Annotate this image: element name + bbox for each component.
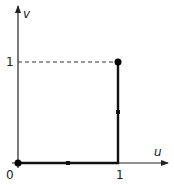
v-axis-label: v <box>23 7 31 21</box>
end-point-dot <box>115 59 122 66</box>
u-tick-label: 1 <box>116 168 124 182</box>
path-curve <box>18 62 118 163</box>
diagram-canvas: v u 1 1 0 <box>0 0 174 185</box>
origin-label: 0 <box>6 168 14 182</box>
start-point-dot <box>15 160 22 167</box>
direction-marker-vertical <box>116 110 120 114</box>
direction-marker-horizontal <box>66 161 70 165</box>
v-tick-label: 1 <box>6 55 14 69</box>
u-axis-label: u <box>154 145 162 159</box>
